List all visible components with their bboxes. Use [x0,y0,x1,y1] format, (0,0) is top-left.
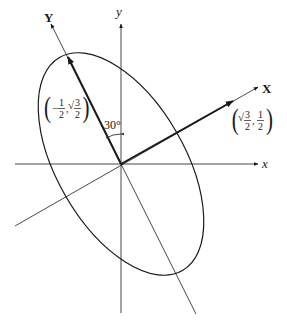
diagram-canvas: x y X Y 30° ( − 1 2 , √ 3 2 ) ( √ 3 2 , … [0,0,287,328]
angle-label: 30° [104,118,121,132]
svg-text:2: 2 [75,109,80,120]
rotated-y-axis-label: Y [44,10,54,25]
point-label-x-unit: ( √ 3 2 , 1 2 ) [232,102,273,136]
svg-text:2: 2 [59,109,64,120]
svg-text:2: 2 [258,121,263,132]
rotated-x-axis-label: X [262,81,272,96]
x-axis-label: x [261,156,268,171]
svg-text:): ) [83,90,90,124]
svg-text:): ) [266,102,273,136]
svg-text:3: 3 [75,97,80,108]
unit-vector-x [121,101,233,164]
svg-text:1: 1 [258,109,263,120]
svg-text:√: √ [68,99,75,111]
svg-text:√: √ [238,111,245,123]
svg-text:2: 2 [245,121,250,132]
svg-text:(: ( [44,90,51,124]
svg-text:1: 1 [59,97,64,108]
svg-text:3: 3 [245,109,250,120]
point-label-y-unit: ( − 1 2 , √ 3 2 ) [44,90,89,124]
svg-text:,: , [252,115,255,126]
y-axis-label: y [114,4,122,19]
svg-text:−: − [52,102,58,114]
